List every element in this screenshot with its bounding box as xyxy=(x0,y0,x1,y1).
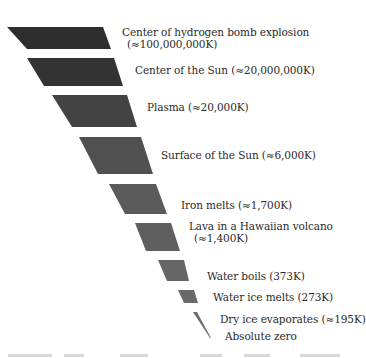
label-line: Dry ice evaporates (≈195K) xyxy=(220,313,366,325)
wedge-iron-melts xyxy=(109,184,167,214)
label-surface-of-sun: Surface of the Sun (≈6,000K) xyxy=(161,149,316,161)
label-value: (≈100,000,000K) xyxy=(122,38,309,50)
label-plasma: Plasma (≈20,000K) xyxy=(147,101,249,113)
label-line: Surface of the Sun (≈6,000K) xyxy=(161,149,316,161)
label-iron-melts: Iron melts (≈1,700K) xyxy=(181,199,292,211)
wedge-surface-of-sun xyxy=(79,137,153,174)
wedge-water-ice-melts xyxy=(178,290,198,303)
wedge-plasma xyxy=(52,95,137,127)
label-center-of-sun: Center of the Sun (≈20,000,000K) xyxy=(135,64,315,76)
label-value: (≈1,400K) xyxy=(189,232,333,244)
label-line: Lava in a Hawaiian volcano xyxy=(189,220,333,232)
label-line: Water ice melts (273K) xyxy=(213,291,333,303)
cropped-caption-fragment xyxy=(0,352,360,358)
label-line: Center of the Sun (≈20,000,000K) xyxy=(135,64,315,76)
label-line: Water boils (373K) xyxy=(207,270,305,282)
label-line: Iron melts (≈1,700K) xyxy=(181,199,292,211)
label-line: Center of hydrogen bomb explosion xyxy=(122,26,309,38)
label-hawaiian-lava: Lava in a Hawaiian volcano (≈1,400K) xyxy=(189,220,333,244)
label-hydrogen-bomb: Center of hydrogen bomb explosion (≈100,… xyxy=(122,26,309,50)
label-line: Absolute zero xyxy=(225,330,297,342)
wedge-hawaiian-lava xyxy=(135,223,180,251)
wedge-water-boils xyxy=(158,260,189,281)
wedge-center-of-sun xyxy=(27,58,123,86)
label-absolute-zero: Absolute zero xyxy=(225,330,297,342)
label-water-boils: Water boils (373K) xyxy=(207,270,305,282)
label-water-ice-melts: Water ice melts (273K) xyxy=(213,291,333,303)
wedge-hydrogen-bomb xyxy=(7,27,111,49)
label-dry-ice-evaporates: Dry ice evaporates (≈195K) xyxy=(220,313,366,325)
wedge-dry-ice-evaporates xyxy=(193,312,211,338)
label-line: Plasma (≈20,000K) xyxy=(147,101,249,113)
